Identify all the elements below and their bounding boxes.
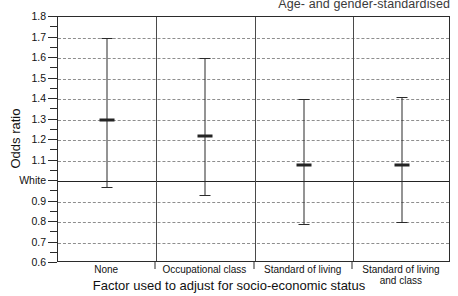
gridline [58,161,449,162]
y-axis-tick-label: 1.4 [31,92,46,104]
data-point-marker [100,118,115,121]
reference-line [58,181,449,182]
y-axis-minor-tick [50,129,57,130]
y-axis-tick [48,242,57,243]
gridline [58,58,449,59]
category-separator [255,17,256,261]
y-axis-tick [48,37,57,38]
y-axis-minor-tick [50,149,57,150]
y-axis-tick [48,119,57,120]
y-axis-tick-label: 1.3 [31,113,46,125]
error-bar [205,58,206,195]
y-axis-minor-tick [50,67,57,68]
gridline [58,222,449,223]
chart-title: Age- and gender-standardised [0,0,458,12]
data-point-marker [198,134,213,137]
x-axis-title: Factor used to adjust for socio-economic… [0,278,458,293]
gridline [58,243,449,244]
error-bar [107,38,108,188]
x-axis-tick-label: Occupational class [162,265,246,276]
gridline [58,99,449,100]
gridline [58,202,449,203]
gridline [58,79,449,80]
y-axis-tick [48,16,57,17]
y-axis-minor-tick [50,170,57,171]
y-axis-minor-tick [50,252,57,253]
y-axis-tick-label: 1.2 [31,133,46,145]
y-axis-minor-tick [50,211,57,212]
gridline [58,140,449,141]
x-axis-tick [253,262,254,269]
chart-root: Age- and gender-standardised Odds ratio … [0,0,458,296]
category-separator [156,17,157,261]
y-axis-tick-label: 1.5 [31,72,46,84]
y-axis-tick-label: 0.6 [31,256,46,268]
y-axis-tick-label: 1.1 [31,154,46,166]
y-axis-minor-tick [50,88,57,89]
y-axis-tick [48,262,57,263]
category-separator [353,17,354,261]
y-axis-minor-tick [50,26,57,27]
y-axis-tick-label: 1.6 [31,51,46,63]
y-axis-tick [48,180,57,181]
y-axis-tick [48,221,57,222]
x-axis-tick [351,262,352,269]
error-bar-cap [102,187,113,188]
data-point-marker [296,163,311,166]
y-axis: 1.81.71.61.51.41.31.21.1White0.90.80.70.… [0,16,57,262]
error-bar-cap [102,38,113,39]
y-axis-minor-tick [50,47,57,48]
x-axis-tick-label: Standard of living [264,265,341,276]
y-axis-tick-label: 0.9 [31,195,46,207]
y-axis-minor-tick [50,231,57,232]
y-axis-tick [48,160,57,161]
error-bar-cap [200,195,211,196]
error-bar [303,99,304,224]
error-bar-cap [200,58,211,59]
error-bar [401,97,402,222]
data-point-marker [394,163,409,166]
y-axis-tick-label: 1.7 [31,31,46,43]
x-axis-tick [155,262,156,269]
y-axis-minor-tick [50,190,57,191]
y-axis-minor-tick [50,108,57,109]
error-bar-cap [396,222,407,223]
error-bar-cap [396,97,407,98]
x-axis-tick-label: None [94,265,118,276]
error-bar-cap [298,99,309,100]
y-axis-tick [48,139,57,140]
y-axis-tick-label: 0.7 [31,236,46,248]
y-axis-tick [48,98,57,99]
plot-area [57,16,450,262]
y-axis-tick [48,78,57,79]
y-axis-tick-label: 0.8 [31,215,46,227]
y-axis-tick-label: 1.8 [31,10,46,22]
y-axis-tick-label: White [19,174,46,186]
gridline [58,120,449,121]
gridline [58,38,449,39]
error-bar-cap [298,224,309,225]
y-axis-tick [48,201,57,202]
y-axis-tick [48,57,57,58]
